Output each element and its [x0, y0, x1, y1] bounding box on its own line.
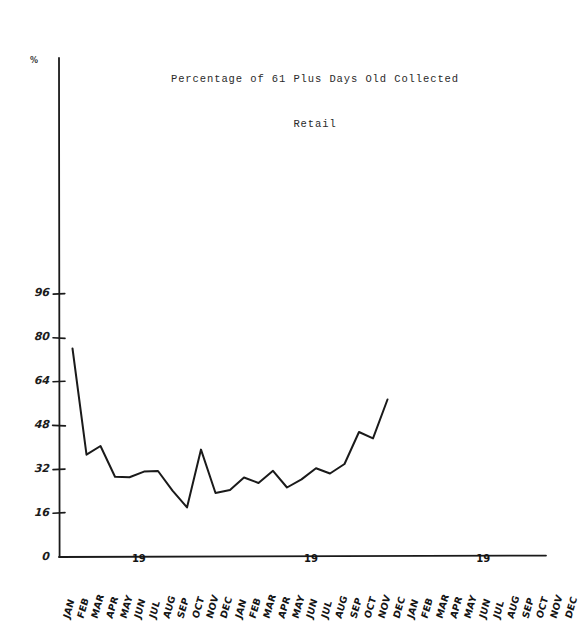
year-marker-1: 19 — [304, 553, 318, 564]
y-tick-label-96: 96 — [24, 286, 51, 299]
year-marker-2: 19 — [476, 553, 490, 564]
y-tick-label-48: 48 — [24, 418, 51, 431]
data-series-line — [73, 349, 388, 508]
axes-group — [53, 58, 546, 557]
y-tick-label-32: 32 — [24, 462, 51, 475]
y-axis-line — [59, 58, 60, 557]
y-tick-label-0: 0 — [24, 550, 51, 563]
y-tick-label-80: 80 — [24, 330, 51, 343]
y-tick-label-16: 16 — [24, 506, 51, 519]
y-tick-label-64: 64 — [24, 374, 51, 387]
series-61-plus-days-collected — [73, 349, 388, 508]
year-marker-0: 19 — [132, 553, 146, 564]
